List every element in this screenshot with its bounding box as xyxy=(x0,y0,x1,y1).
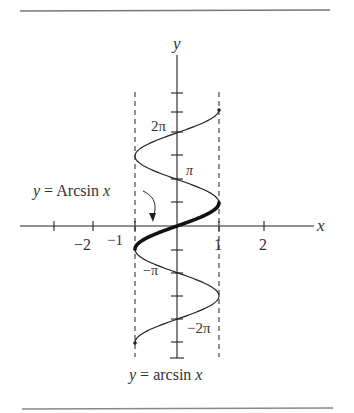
tick-label-pi: π xyxy=(186,163,194,178)
tick-label-2: 2 xyxy=(259,236,267,253)
tick-label-neg-pi: −π xyxy=(143,263,158,278)
arcsin-figure: y x 2π π −π −2π −2 −1 1 2 y = Arcsin x y… xyxy=(0,0,354,413)
curve-endpoint-bottom xyxy=(133,341,137,345)
arrowhead-icon xyxy=(149,213,156,222)
principal-branch-label: y = Arcsin x xyxy=(31,182,110,200)
bottom-rule xyxy=(22,408,333,409)
tick-label-2pi: 2π xyxy=(151,118,167,134)
y-axis-label: y xyxy=(171,34,181,53)
tick-label-neg1: −1 xyxy=(107,232,123,248)
top-rule xyxy=(20,10,330,11)
tick-label-1: 1 xyxy=(214,236,222,253)
curve-endpoint-top xyxy=(217,108,221,112)
x-axis-label: x xyxy=(316,216,325,235)
tick-label-neg2: −2 xyxy=(74,236,91,253)
tick-label-neg-2pi: −2π xyxy=(187,320,211,336)
multivalued-caption: y = arcsin x xyxy=(127,366,202,384)
